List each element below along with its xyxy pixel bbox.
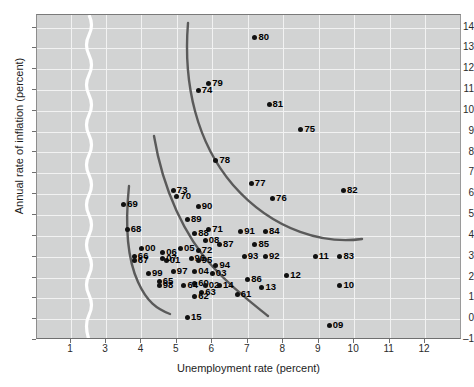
y-axis-tick-mark [32,27,36,28]
y-axis-title: Annual rate of inflation (percent) [13,51,25,221]
data-point-label: 07 [166,253,177,262]
data-point-label: 92 [269,251,280,260]
data-point [181,283,186,288]
data-point [192,269,197,274]
data-point-label: 69 [127,199,138,208]
x-axis-tick-label: 6 [198,343,224,354]
y-axis-tick-label: 1 [444,292,474,302]
x-axis-tick-label: 1 [57,343,83,354]
data-point [313,254,318,259]
data-point [171,188,176,193]
data-point-label: 78 [219,155,230,164]
y-axis-tick-mark [32,214,36,215]
y-axis-tick-label: 0 [444,313,474,323]
y-axis-tick-label: 7 [444,167,474,177]
x-axis-tick-mark [247,339,248,343]
data-point-label: 88 [198,228,209,237]
data-point [174,194,179,199]
data-point [284,273,289,278]
data-point [121,202,126,207]
data-point-label: 10 [343,280,354,289]
x-axis-tick-label: 9 [305,343,331,354]
y-axis-tick-mark [32,131,36,132]
data-point-label: 93 [248,251,259,260]
data-point [185,217,190,222]
data-point [267,102,272,107]
y-axis-tick-mark [32,339,36,340]
y-axis-tick-label: 3 [444,251,474,261]
y-axis-tick-label: 4 [444,230,474,240]
data-point [146,271,151,276]
data-point [263,254,268,259]
data-point-label: 67 [138,255,149,264]
data-point-label: 04 [198,266,209,275]
data-points: 8079748175787782767370699089687191848808… [37,15,460,338]
x-axis-tick-mark [105,339,106,343]
data-point-label: 09 [333,320,344,329]
data-point-label: 64 [187,280,198,289]
data-point [213,158,218,163]
x-axis-tick-label: 7 [234,343,260,354]
chart-figure: 8079748175787782767370699089687191848808… [0,0,474,387]
y-axis-tick-mark [32,47,36,48]
x-axis-tick-mark [176,339,177,343]
data-point [298,127,303,132]
data-point-label: 14 [223,280,234,289]
data-point-label: 84 [269,226,280,235]
x-axis-tick-label: 3 [92,343,118,354]
data-point-label: 68 [131,224,142,233]
y-axis-tick-label: 12 [444,63,474,73]
plot-area: 8079748175787782767370699089687191848808… [36,14,461,339]
data-point-label: 75 [304,124,315,133]
x-axis-tick-mark [353,339,354,343]
data-point [263,229,268,234]
x-axis-tick-mark [211,339,212,343]
data-point [196,88,201,93]
data-point [249,181,254,186]
x-axis-tick-label: 5 [163,343,189,354]
y-axis-tick-mark [32,318,36,319]
data-point [185,315,190,320]
data-point [217,283,222,288]
data-point-label: 99 [152,268,163,277]
data-point-label: 11 [319,251,329,260]
x-axis-tick-mark [424,339,425,343]
data-point-label: 79 [212,78,223,87]
y-axis-tick-mark [32,172,36,173]
y-axis-tick-label: 9 [444,126,474,136]
x-axis-tick-mark [389,339,390,343]
data-point [160,250,165,255]
y-axis-tick-label: 13 [444,42,474,52]
data-point-label: 61 [241,289,252,298]
data-point-label: 86 [251,274,262,283]
y-axis-tick-label: 10 [444,105,474,115]
data-point-label: 76 [276,193,287,202]
x-axis-tick-mark [70,339,71,343]
data-point [337,283,342,288]
y-axis-tick-mark [32,89,36,90]
data-point-label: 05 [184,243,195,252]
data-point [337,254,342,259]
y-axis-tick-label: 11 [444,84,474,94]
y-axis-tick-mark [32,110,36,111]
data-point [270,196,275,201]
y-axis-tick-label: 6 [444,188,474,198]
y-axis-tick-label: 2 [444,272,474,282]
x-axis-tick-mark [282,339,283,343]
data-point-label: 70 [180,191,191,200]
y-axis-tick-label: 5 [444,209,474,219]
data-point [125,227,130,232]
y-axis-tick-mark [32,277,36,278]
data-point-label: 77 [255,178,266,187]
data-point [238,229,243,234]
x-axis-tick-label: 10 [340,343,366,354]
data-point-label: 91 [244,226,255,235]
y-axis-tick-mark [32,235,36,236]
x-axis-tick-label: 4 [127,343,153,354]
data-point-label: 97 [177,266,188,275]
x-axis-title: Unemployment rate (percent) [36,362,461,374]
data-point [210,271,215,276]
data-point-label: 85 [258,239,269,248]
data-point [341,188,346,193]
data-point-label: 80 [258,32,269,41]
